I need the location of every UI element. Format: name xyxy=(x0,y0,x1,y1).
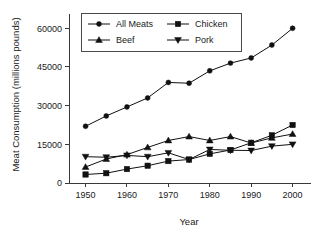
marker-square xyxy=(166,158,171,163)
marker-square xyxy=(145,163,150,168)
y-tick-label: 15000 xyxy=(37,140,62,150)
series-pork xyxy=(82,142,296,163)
x-tick-label: 2000 xyxy=(283,190,303,200)
marker-circle xyxy=(166,80,171,85)
series-chicken xyxy=(83,122,295,177)
marker-square xyxy=(124,166,129,171)
marker-circle xyxy=(104,113,109,118)
x-tick-group: 195019601970198019902000 xyxy=(76,183,303,200)
marker-circle xyxy=(97,22,102,27)
x-tick-label: 1980 xyxy=(200,190,220,200)
marker-square xyxy=(175,21,180,26)
legend-label: Pork xyxy=(195,35,214,45)
marker-triangle-up xyxy=(289,131,296,137)
legend: All MeatsChickenBeefPork xyxy=(81,13,241,51)
x-axis-title: Year xyxy=(179,216,198,227)
marker-triangle-up xyxy=(227,133,234,139)
chart-canvas: 0150003000045000600001950196019701980199… xyxy=(0,0,332,235)
y-tick-label: 60000 xyxy=(37,24,62,34)
marker-circle xyxy=(187,81,192,86)
marker-square xyxy=(104,171,109,176)
marker-square xyxy=(290,122,295,127)
y-axis-title: Meat Consumption (millions pounds) xyxy=(10,17,21,171)
marker-circle xyxy=(83,124,88,129)
marker-circle xyxy=(145,95,150,100)
meat-consumption-chart: 0150003000045000600001950196019701980199… xyxy=(0,0,332,235)
marker-circle xyxy=(207,68,212,73)
y-tick-label: 30000 xyxy=(37,101,62,111)
marker-square xyxy=(83,172,88,177)
series-beef xyxy=(82,131,296,170)
x-tick-label: 1950 xyxy=(76,190,96,200)
marker-circle xyxy=(269,43,274,48)
y-tick-label: 45000 xyxy=(37,62,62,72)
x-tick-label: 1970 xyxy=(158,190,178,200)
legend-label: Beef xyxy=(116,35,135,45)
y-tick-group: 015000300004500060000 xyxy=(37,24,69,189)
series-line xyxy=(86,125,293,175)
marker-circle xyxy=(124,104,129,109)
legend-label: Chicken xyxy=(195,19,228,29)
x-tick-label: 1960 xyxy=(117,190,137,200)
marker-triangle-up xyxy=(186,133,193,139)
y-tick-label: 0 xyxy=(57,178,62,188)
marker-circle xyxy=(228,61,233,66)
marker-triangle-down xyxy=(144,154,151,160)
marker-circle xyxy=(249,55,254,60)
legend-label: All Meats xyxy=(116,19,154,29)
x-tick-label: 1990 xyxy=(241,190,261,200)
marker-circle xyxy=(290,26,295,31)
